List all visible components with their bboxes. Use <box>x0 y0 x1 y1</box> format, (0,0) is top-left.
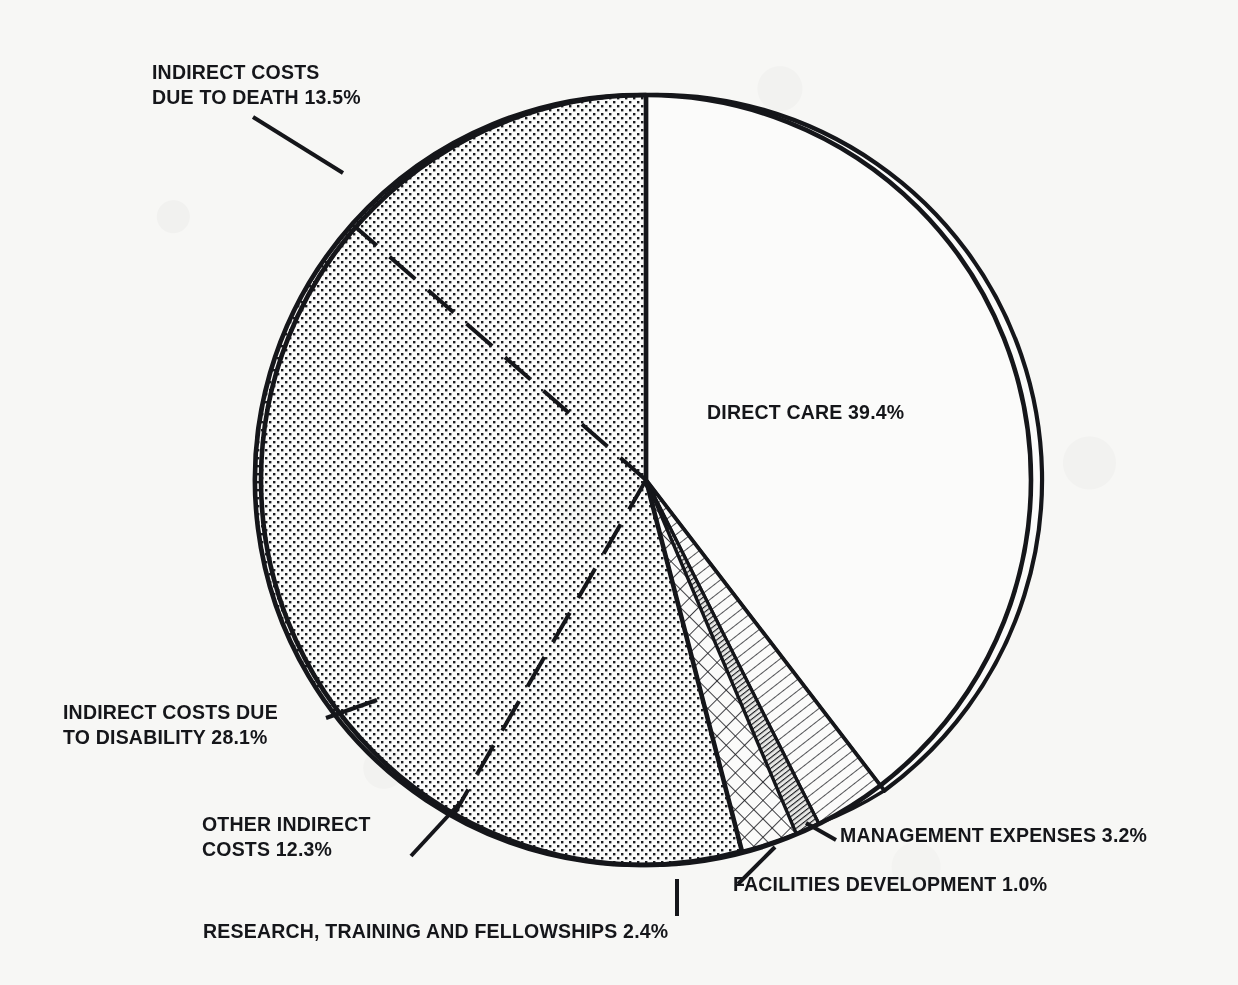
slice-label-indirect-costs-death: INDIRECT COSTS DUE TO DEATH 13.5% <box>152 60 361 110</box>
slice-label-research-training-fellowships: RESEARCH, TRAINING AND FELLOWSHIPS 2.4% <box>203 919 668 944</box>
leader-line-indirect-death <box>253 117 343 173</box>
leader-line-other-indirect <box>411 804 459 856</box>
slice-label-direct-care: DIRECT CARE 39.4% <box>707 400 904 425</box>
slice-label-facilities-development: FACILITIES DEVELOPMENT 1.0% <box>733 872 1047 897</box>
slice-label-indirect-costs-disability: INDIRECT COSTS DUE TO DISABILITY 28.1% <box>63 700 278 750</box>
slice-label-management-expenses: MANAGEMENT EXPENSES 3.2% <box>840 823 1147 848</box>
leader-line-management <box>806 823 836 840</box>
slice-label-other-indirect-costs: OTHER INDIRECT COSTS 12.3% <box>202 812 371 862</box>
pie-chart-page: INDIRECT COSTS DUE TO DEATH 13.5% DIRECT… <box>0 0 1238 985</box>
